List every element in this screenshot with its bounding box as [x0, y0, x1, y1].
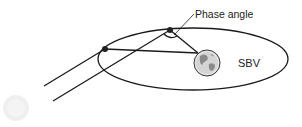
planet-label: SBV: [238, 57, 261, 69]
phase-angle-label: Phase angle: [195, 8, 254, 20]
phase-angle-diagram: Phase angle SBV: [0, 0, 302, 127]
earth-globe-icon: [194, 50, 220, 76]
sun-ray-1: [44, 49, 105, 86]
sightline-1: [105, 49, 198, 53]
sun-icon: [3, 95, 29, 121]
spacecraft-1-icon: [167, 27, 173, 33]
spacecraft-2-icon: [102, 46, 108, 52]
phase-angle-leader: [174, 14, 194, 35]
sun-ray-2: [53, 30, 170, 101]
sightline-2: [170, 30, 198, 53]
